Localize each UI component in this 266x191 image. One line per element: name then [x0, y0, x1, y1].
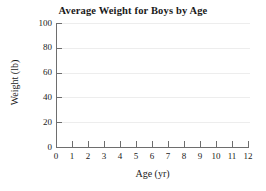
gridline-80: [56, 48, 250, 49]
x-tick-6: [152, 141, 153, 147]
gridline-20: [56, 122, 250, 123]
x-tick-10: [216, 141, 217, 147]
y-tick-label-100-wrap: 100: [19, 19, 52, 28]
x-tick-8: [184, 141, 185, 147]
x-tick-9: [200, 141, 201, 147]
y-tick-label-100: 100: [22, 19, 52, 28]
gridline-40: [56, 97, 250, 98]
x-tick-12: [248, 141, 249, 147]
x-tick-label-8: 8: [176, 151, 192, 161]
plot-area: [56, 23, 248, 147]
x-tick-7: [168, 141, 169, 147]
x-tick-2: [88, 141, 89, 147]
y-axis-title: Weight (lb): [9, 38, 20, 128]
y-tick-40: [57, 97, 62, 98]
y-tick-100: [57, 23, 62, 24]
gridline-60: [56, 73, 250, 74]
chart-figure: Average Weight for Boys by Age 100 80 60…: [0, 0, 266, 191]
x-tick-label-0: 0: [48, 151, 64, 161]
x-tick-label-2: 2: [80, 151, 96, 161]
x-axis-title: Age (yr): [56, 168, 249, 179]
y-tick-label-20-wrap: 20: [19, 118, 52, 127]
y-tick-label-40-wrap: 40: [19, 93, 52, 102]
x-tick-label-10: 10: [208, 151, 224, 161]
x-tick-label-6: 6: [144, 151, 160, 161]
gridline-100: [56, 23, 250, 24]
chart-title: Average Weight for Boys by Age: [0, 5, 266, 16]
y-tick-label-80: 80: [22, 43, 52, 52]
x-axis-line: [56, 147, 249, 148]
x-tick-label-9: 9: [192, 151, 208, 161]
y-tick-label-80-wrap: 80: [19, 43, 52, 52]
x-tick-3: [104, 141, 105, 147]
x-tick-label-11: 11: [224, 151, 240, 161]
y-axis-line: [56, 23, 57, 148]
x-tick-11: [232, 141, 233, 147]
y-tick-label-20: 20: [22, 118, 52, 127]
x-tick-4: [120, 141, 121, 147]
y-tick-label-60: 60: [22, 68, 52, 77]
y-tick-label-40: 40: [22, 93, 52, 102]
x-tick-5: [136, 141, 137, 147]
x-tick-label-12: 12: [240, 151, 256, 161]
x-tick-label-4: 4: [112, 151, 128, 161]
y-tick-60: [57, 73, 62, 74]
x-tick-1: [72, 141, 73, 147]
y-tick-80: [57, 48, 62, 49]
y-tick-label-60-wrap: 60: [19, 68, 52, 77]
x-tick-label-7: 7: [160, 151, 176, 161]
x-tick-label-1: 1: [64, 151, 80, 161]
y-tick-20: [57, 122, 62, 123]
x-tick-label-3: 3: [96, 151, 112, 161]
x-tick-label-5: 5: [128, 151, 144, 161]
